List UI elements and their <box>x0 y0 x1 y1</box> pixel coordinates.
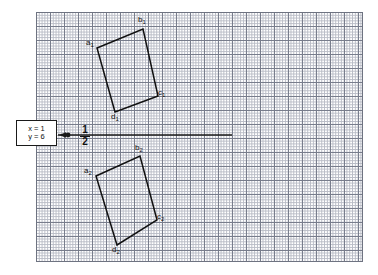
vertex-label-a1: a1 <box>86 38 94 47</box>
vertex-label-a2: a2 <box>84 166 92 175</box>
vertex-label-c2: c2 <box>157 212 164 221</box>
figure-canvas: a1 b1 c1 d1 a2 b2 c2 d2 x = 1 y = 6 1 2 <box>0 0 378 275</box>
fraction-one-half-label: 1 2 <box>79 125 91 148</box>
vertex-label-b1: b1 <box>138 15 146 24</box>
vertex-label-d1: d1 <box>111 112 119 121</box>
translation-equations-box: x = 1 y = 6 <box>16 120 57 146</box>
fraction-numerator: 1 <box>79 125 91 135</box>
vertex-label-d2: d2 <box>112 245 120 254</box>
fraction-denominator: 2 <box>79 137 91 148</box>
vertex-label-c1: c1 <box>158 88 165 97</box>
equation-y: y = 6 <box>28 133 44 141</box>
vertex-label-b2: b2 <box>135 143 143 152</box>
